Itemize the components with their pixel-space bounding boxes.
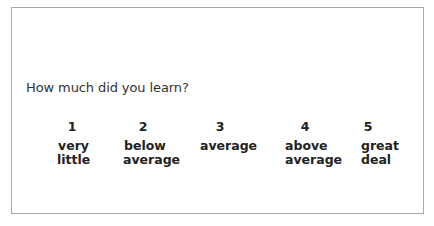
scale-label-2: below average [123,139,180,167]
scale-number-5: 5 [364,119,373,134]
scale-number-2: 2 [139,119,148,134]
scale-label-1: very little [57,139,90,167]
scale-label-5: great deal [361,139,399,167]
scale-label-3: average [200,139,257,153]
scale-number-3: 3 [216,119,225,134]
question-text: How much did you learn? [26,80,189,95]
scale-number-4: 4 [301,119,310,134]
scale-number-1: 1 [68,119,77,134]
scale-label-4: above average [285,139,342,167]
survey-card [11,7,424,214]
